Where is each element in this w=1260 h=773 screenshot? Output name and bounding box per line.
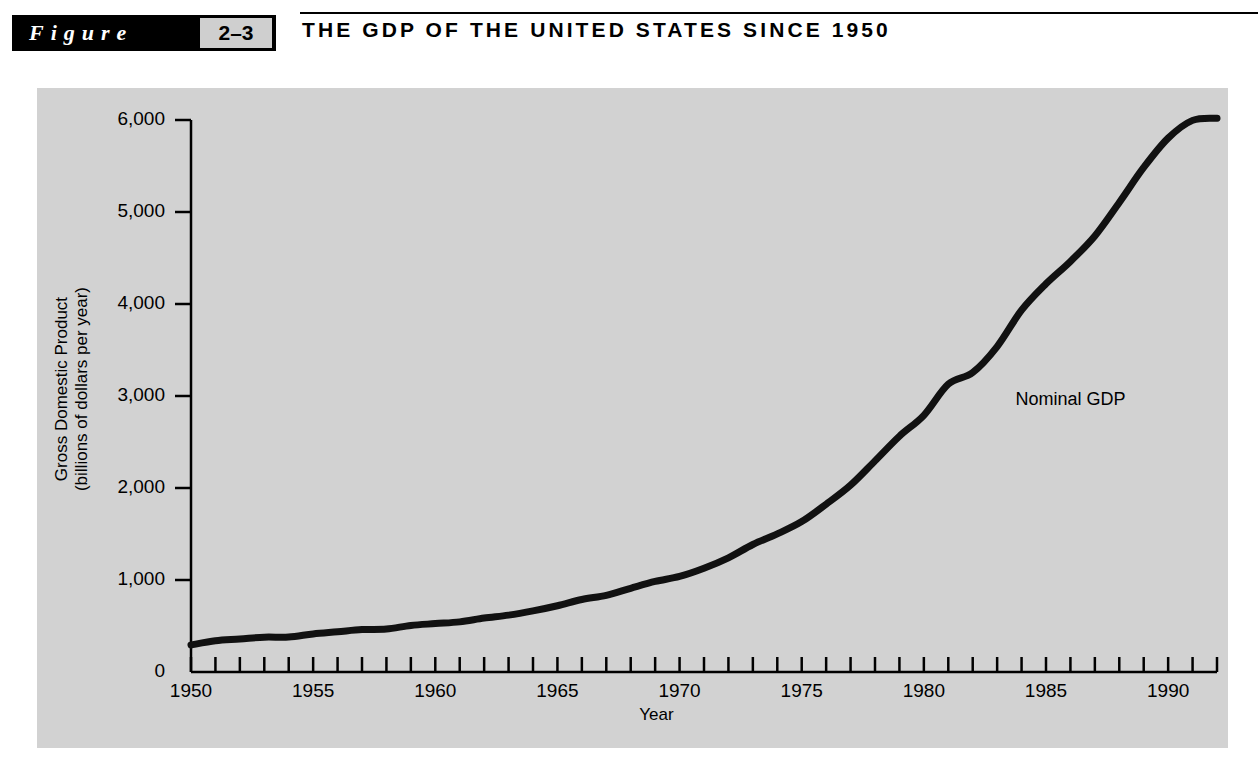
nominal-gdp-line <box>191 118 1217 645</box>
x-axis-tick-label: 1970 <box>635 680 725 702</box>
y-axis-tick-label: 2,000 <box>75 476 165 498</box>
x-axis-tick-label: 1955 <box>268 680 358 702</box>
figure-word: Figure <box>12 20 133 46</box>
y-axis-tick-label: 1,000 <box>75 568 165 590</box>
x-axis-ticks <box>191 657 1217 672</box>
figure-badge: Figure 2–3 <box>12 15 276 51</box>
y-axis-tick-label: 4,000 <box>75 292 165 314</box>
chart-panel: Gross Domestic Product (billions of doll… <box>37 88 1228 748</box>
x-axis-tick-label: 1990 <box>1123 680 1213 702</box>
x-axis-tick-label: 1980 <box>879 680 969 702</box>
series-annotation-nominal-gdp: Nominal GDP <box>1015 389 1125 410</box>
x-axis-title: Year <box>37 705 1228 725</box>
x-axis-tick-label: 1960 <box>390 680 480 702</box>
y-axis-tick-label: 5,000 <box>75 200 165 222</box>
figure-page: Figure 2–3 THE GDP OF THE UNITED STATES … <box>0 0 1260 773</box>
figure-number: 2–3 <box>218 21 253 45</box>
figure-title: THE GDP OF THE UNITED STATES SINCE 1950 <box>302 18 891 42</box>
x-axis-tick-label: 1950 <box>146 680 236 702</box>
x-axis-title-text: Year <box>639 705 673 724</box>
y-axis-title-line1: Gross Domestic Product <box>52 224 72 554</box>
x-axis-tick-label: 1965 <box>512 680 602 702</box>
figure-number-box: 2–3 <box>200 18 272 48</box>
y-axis-tick-label: 0 <box>75 660 165 682</box>
y-axis-tick-label: 6,000 <box>75 108 165 130</box>
x-axis-tick-label: 1985 <box>1001 680 1091 702</box>
y-axis-ticks <box>175 120 191 580</box>
header-rule <box>300 12 1258 14</box>
figure-header: Figure 2–3 THE GDP OF THE UNITED STATES … <box>0 0 1260 60</box>
x-axis-tick-label: 1975 <box>757 680 847 702</box>
gdp-line-chart <box>37 88 1228 748</box>
y-axis-tick-label: 3,000 <box>75 384 165 406</box>
